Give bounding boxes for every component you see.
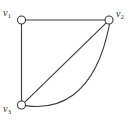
vertex-label-v2-subscript: 2 xyxy=(121,13,124,20)
edge-v3-v2-straight xyxy=(25,23,107,103)
graph-canvas xyxy=(0,0,134,129)
graph-figure: v1 v2 v3 xyxy=(0,0,134,129)
edge-v3-v2-arc xyxy=(26,24,110,106)
vertex-node-v1[interactable] xyxy=(18,16,26,24)
vertex-label-v1-name: v xyxy=(3,7,7,18)
vertex-label-v1: v1 xyxy=(3,8,11,18)
vertex-node-v3[interactable] xyxy=(18,101,26,109)
vertex-label-v1-subscript: 1 xyxy=(8,12,11,19)
vertex-label-v3-name: v xyxy=(3,103,7,114)
vertex-label-v2-name: v xyxy=(116,8,120,19)
vertex-label-v3: v3 xyxy=(3,104,11,114)
vertex-label-v2: v2 xyxy=(116,9,124,19)
vertex-label-v3-subscript: 3 xyxy=(8,108,11,115)
vertex-node-v2[interactable] xyxy=(105,16,113,24)
